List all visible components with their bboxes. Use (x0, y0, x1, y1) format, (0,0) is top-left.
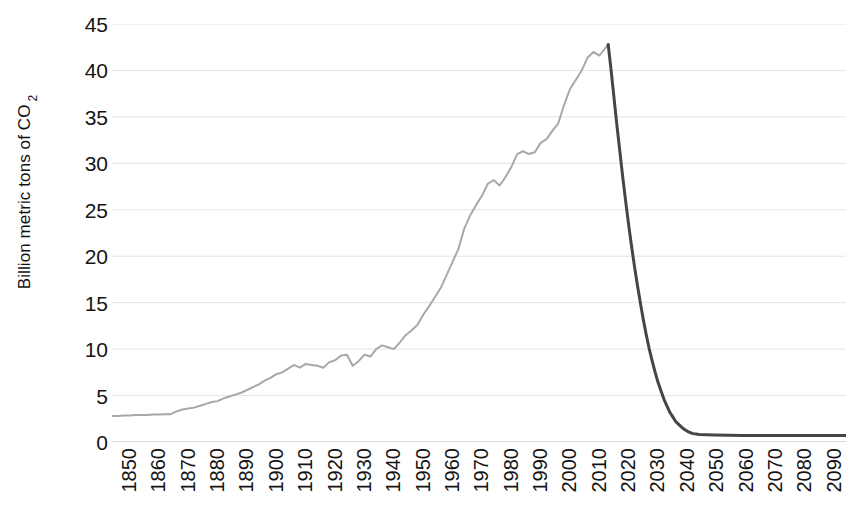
y-tick-label: 35 (48, 106, 108, 127)
plot-svg (112, 24, 846, 442)
x-tick-label: 1990 (530, 448, 550, 518)
y-axis-tick-labels: 051015202530354045 (48, 0, 108, 529)
x-tick-label: 1920 (325, 448, 345, 518)
y-tick-label: 25 (48, 199, 108, 220)
x-tick-label: 2080 (794, 448, 814, 518)
y-tick-label: 0 (48, 432, 108, 453)
x-tick-label: 2000 (559, 448, 579, 518)
x-tick-label: 2030 (647, 448, 667, 518)
x-tick-label: 1970 (471, 448, 491, 518)
gridlines (112, 24, 846, 442)
x-tick-label: 2050 (706, 448, 726, 518)
series-line (608, 44, 846, 435)
x-axis-tick-labels: 1850186018701880189019001910192019301940… (112, 442, 846, 529)
x-tick-label: 1910 (295, 448, 315, 518)
x-tick-label: 1890 (236, 448, 256, 518)
y-axis-title-subscript: 2 (26, 95, 42, 105)
plot-area (112, 24, 846, 442)
x-tick-label: 2020 (618, 448, 638, 518)
x-tick-label: 1960 (442, 448, 462, 518)
x-tick-label: 2040 (677, 448, 697, 518)
series-lines (112, 44, 846, 435)
x-tick-label: 1860 (148, 448, 168, 518)
x-tick-label: 2010 (589, 448, 609, 518)
y-tick-label: 30 (48, 153, 108, 174)
x-tick-label: 2090 (824, 448, 844, 518)
y-tick-label: 15 (48, 292, 108, 313)
x-tick-label: 1870 (178, 448, 198, 518)
x-tick-label: 1980 (501, 448, 521, 518)
x-tick-label: 2060 (736, 448, 756, 518)
y-tick-label: 10 (48, 339, 108, 360)
x-tick-label: 1930 (354, 448, 374, 518)
y-tick-label: 5 (48, 385, 108, 406)
y-axis-title-text: Billion metric tons of CO (15, 104, 35, 289)
x-tick-label: 1850 (119, 448, 139, 518)
x-tick-label: 2070 (765, 448, 785, 518)
y-axis-title: Billion metric tons of CO2 (8, 0, 42, 412)
y-tick-label: 20 (48, 246, 108, 267)
x-tick-label: 1900 (266, 448, 286, 518)
x-tick-label: 1940 (383, 448, 403, 518)
series-line (112, 44, 608, 416)
y-tick-label: 45 (48, 14, 108, 35)
x-tick-label: 1950 (413, 448, 433, 518)
y-tick-label: 40 (48, 60, 108, 81)
x-tick-label: 1880 (207, 448, 227, 518)
co2-emissions-chart: Billion metric tons of CO2 0510152025303… (0, 0, 862, 529)
